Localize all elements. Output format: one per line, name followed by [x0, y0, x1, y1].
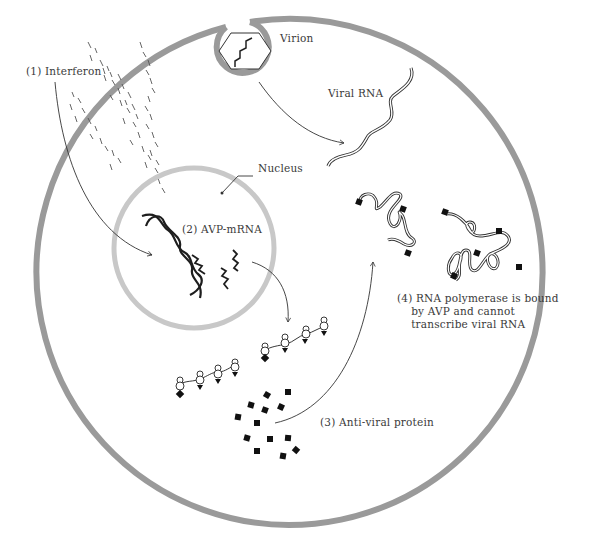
nucleus — [114, 168, 274, 328]
label-viral-rna: Viral RNA — [328, 87, 383, 100]
diagram-canvas — [0, 0, 600, 535]
rna-polymerase-complex-right-icon — [441, 208, 522, 280]
interferon-diagram: (1) Interferon Virion Viral RNA Nucleus … — [0, 0, 600, 535]
label-interferon: (1) Interferon — [26, 65, 102, 78]
virion-icon — [219, 33, 271, 69]
label-anti-viral-protein: (3) Anti-viral protein — [320, 416, 434, 429]
viral-rna-strand-icon — [328, 68, 412, 166]
polyribosome-upper-icon — [261, 317, 328, 362]
cell-membrane — [37, 19, 543, 525]
label-nucleus: Nucleus — [258, 162, 303, 175]
label-rna-polymerase: (4) RNA polymerase is bound by AVP and c… — [397, 292, 559, 331]
anti-viral-protein-particles-icon — [235, 389, 301, 459]
rna-polymerase-complex-left-icon — [355, 193, 414, 257]
polyribosome-lower-icon — [176, 359, 239, 398]
mrna-export-arrow — [252, 262, 288, 322]
label-avp-mrna: (2) AVP-mRNA — [182, 223, 262, 236]
label-virion: Virion — [280, 32, 313, 45]
interferon-arrow — [55, 82, 152, 255]
